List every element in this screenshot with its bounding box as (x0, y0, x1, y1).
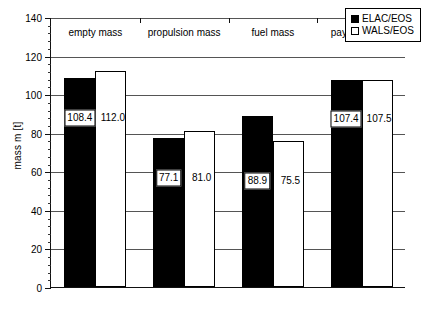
y-axis-minor-tick (48, 226, 51, 227)
y-axis-minor-tick (48, 103, 51, 104)
data-label: 107.4 (331, 111, 362, 128)
data-label: 75.5 (279, 174, 302, 188)
y-axis-tick-label: 80 (12, 128, 42, 139)
y-axis-minor-tick (48, 195, 51, 196)
y-axis-minor-tick (48, 87, 51, 88)
y-axis-minor-tick (48, 141, 51, 142)
y-axis-minor-tick (48, 41, 51, 42)
y-axis-tick (45, 134, 51, 135)
legend-item-wals-eos: WALS/EOS (351, 25, 414, 36)
x-axis-tick (317, 18, 318, 23)
y-axis-tick-label: 100 (12, 90, 42, 101)
chart-legend: ELAC/EOS WALS/EOS (345, 8, 421, 42)
y-axis-tick (45, 18, 51, 19)
y-axis-minor-tick (48, 149, 51, 150)
legend-label: ELAC/EOS (362, 13, 412, 24)
y-axis-minor-tick (48, 234, 51, 235)
data-label: 108.4 (64, 109, 95, 126)
legend-label: WALS/EOS (362, 25, 414, 36)
y-axis-minor-tick (48, 64, 51, 65)
y-axis-minor-tick (48, 33, 51, 34)
legend-swatch-outlined-square-white (351, 27, 359, 35)
y-axis-tick-label: 20 (12, 244, 42, 255)
bar (242, 116, 273, 287)
y-axis-tick-label: 60 (12, 167, 42, 178)
x-axis-category-label: propulsion mass (148, 27, 221, 38)
data-label: 77.1 (156, 169, 181, 186)
bar (362, 80, 393, 287)
y-axis-tick-label: 40 (12, 205, 42, 216)
y-axis-tick (45, 288, 51, 289)
y-axis-minor-tick (48, 49, 51, 50)
legend-item-elac-eos: ELAC/EOS (351, 13, 414, 24)
y-axis-minor-tick (48, 188, 51, 189)
data-label: 88.9 (245, 172, 270, 189)
y-axis-minor-tick (48, 265, 51, 266)
y-axis-tick (45, 249, 51, 250)
data-label: 107.5 (365, 112, 394, 126)
y-axis-minor-tick (48, 180, 51, 181)
y-axis-minor-tick (48, 126, 51, 127)
bar (184, 131, 215, 287)
y-axis-tick-label: 0 (12, 283, 42, 294)
bar (95, 71, 126, 287)
y-axis-minor-tick (48, 111, 51, 112)
plot-inner: 020406080100120140108.4112.077.181.088.9… (51, 18, 405, 287)
y-axis-tick (45, 211, 51, 212)
x-axis-category-label: fuel mass (251, 27, 294, 38)
plot-area: 020406080100120140108.4112.077.181.088.9… (50, 18, 405, 288)
y-axis-minor-tick (48, 118, 51, 119)
legend-swatch-filled-square-black (351, 15, 359, 23)
bar (273, 141, 304, 287)
y-axis-minor-tick (48, 257, 51, 258)
x-axis-category-label: empty mass (68, 27, 122, 38)
data-label: 81.0 (190, 171, 213, 185)
y-axis-minor-tick (48, 157, 51, 158)
y-axis-minor-tick (48, 203, 51, 204)
y-axis-minor-tick (48, 80, 51, 81)
y-axis-tick-label: 140 (12, 13, 42, 24)
y-axis-tick-label: 120 (12, 51, 42, 62)
data-label: 112.0 (99, 111, 127, 125)
y-axis-minor-tick (48, 280, 51, 281)
gridline (51, 57, 405, 58)
y-axis-tick (45, 57, 51, 58)
x-axis-tick (140, 18, 141, 23)
y-axis-minor-tick (48, 273, 51, 274)
bar-chart: mass m [t] 020406080100120140108.4112.07… (0, 0, 427, 319)
x-axis-tick (229, 18, 230, 23)
y-axis-minor-tick (48, 165, 51, 166)
y-axis-minor-tick (48, 219, 51, 220)
bar (153, 138, 184, 287)
y-axis-tick (45, 95, 51, 96)
y-axis-minor-tick (48, 26, 51, 27)
y-axis-tick (45, 172, 51, 173)
y-axis-minor-tick (48, 72, 51, 73)
y-axis-minor-tick (48, 242, 51, 243)
